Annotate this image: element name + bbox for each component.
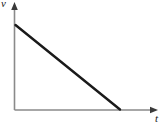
y-axis-label: v [1,0,6,9]
velocity-time-graph: v t [0,0,164,128]
x-axis-label: t [155,113,158,124]
plot-area [0,0,164,128]
velocity-line [16,25,121,110]
y-axis-arrowhead [11,2,18,10]
